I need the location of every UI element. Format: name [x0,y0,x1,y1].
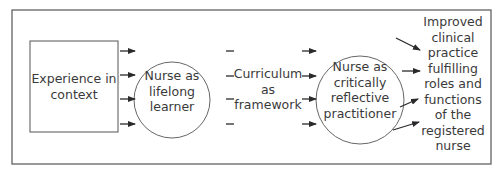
outcome-label: Improved clinical practice fulfilling ro… [416,14,490,154]
lifelong-learner-label: Nurse as lifelong learner [134,68,210,115]
reflective-practitioner-label: Nurse as critically reflective practitio… [314,59,406,121]
curriculum-label: Curriculum as framework [233,66,303,113]
experience-label: Experience in context [30,71,118,102]
arrows-experience-to-lifelong [120,51,135,124]
